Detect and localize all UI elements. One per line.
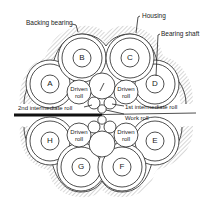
label-1st-intermediate-roll: 1st intermediate roll <box>125 104 177 110</box>
label-2nd-intermediate-roll: 2nd intermediate roll <box>18 105 72 111</box>
bearing-label-G: G <box>78 162 84 171</box>
driven-roll-label: Driven <box>117 86 134 92</box>
bearing-label-A: A <box>47 79 53 88</box>
label-housing: Housing <box>142 12 166 20</box>
label-backing-bearing: Backing bearing <box>26 19 73 27</box>
bearing-label-D: D <box>152 79 158 88</box>
driven-roll-bottom-right: Driven roll <box>114 123 138 147</box>
second-intermediate-bottom <box>89 131 115 157</box>
driven-roll-bottom-left: Driven roll <box>67 123 91 147</box>
bearing-label-F: F <box>120 162 125 171</box>
label-work-roll: Work roll <box>125 115 149 121</box>
bearing-label-C: C <box>127 53 133 62</box>
driven-roll-label: roll <box>75 93 83 99</box>
driven-roll-label: Driven <box>70 86 87 92</box>
driven-roll-label: Driven <box>117 129 134 135</box>
diagram-canvas: A D B C H E G F Driven roll <box>0 0 216 210</box>
backing-bearing-C: C <box>106 34 154 82</box>
driven-roll-label: roll <box>122 93 130 99</box>
bearing-label-H: H <box>47 136 53 145</box>
strip <box>14 114 102 117</box>
strip-line-right <box>102 113 196 115</box>
bearing-label-B: B <box>79 53 84 62</box>
cluster-mill-diagram: A D B C H E G F Driven roll <box>0 0 216 210</box>
driven-roll-label: Driven <box>70 129 87 135</box>
driven-roll-top-left: Driven roll <box>67 80 91 104</box>
driven-roll-top-right: Driven roll <box>114 80 138 104</box>
label-bearing-shaft: Bearing shaft <box>161 30 199 38</box>
second-intermediate-top <box>89 73 115 99</box>
bearing-label-E: E <box>152 136 157 145</box>
driven-roll-label: roll <box>75 136 83 142</box>
driven-roll-label: roll <box>122 136 130 142</box>
